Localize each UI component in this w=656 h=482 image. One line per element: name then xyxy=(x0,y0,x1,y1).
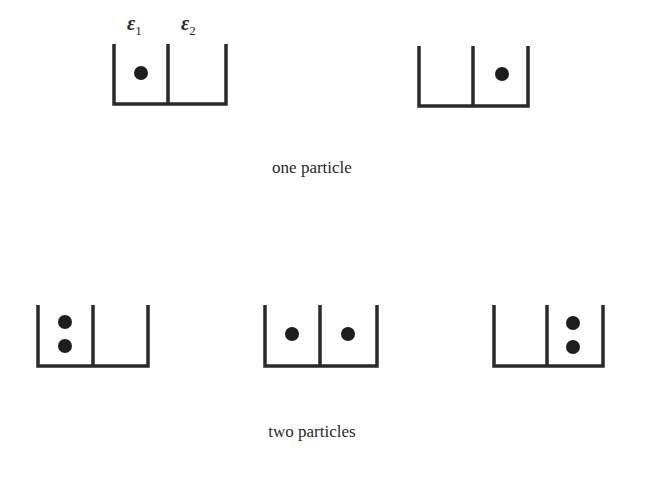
box-outline xyxy=(38,305,148,366)
level-2-label: ε2 xyxy=(181,12,196,39)
level-1-label: ε1 xyxy=(127,12,142,39)
two-particle-config-2 xyxy=(265,305,377,366)
energy-level-diagram xyxy=(0,0,656,482)
two-particles-caption: two particles xyxy=(268,422,355,442)
box-outline xyxy=(114,44,226,104)
one-particle-caption: one particle xyxy=(272,158,352,178)
level-2-subscript: 2 xyxy=(189,23,196,38)
box-outline xyxy=(494,305,603,366)
particle-dot xyxy=(134,66,148,80)
two-particle-config-1 xyxy=(38,305,148,366)
epsilon-symbol: ε xyxy=(181,12,189,34)
epsilon-symbol: ε xyxy=(127,12,135,34)
box-outline xyxy=(419,46,528,106)
particle-dot xyxy=(285,327,299,341)
particle-dot xyxy=(566,316,580,330)
one-particle-config-1 xyxy=(114,44,226,104)
two-particle-config-3 xyxy=(494,305,603,366)
level-1-subscript: 1 xyxy=(135,23,142,38)
particle-dot xyxy=(341,327,355,341)
particle-dot xyxy=(58,339,72,353)
one-particle-config-2 xyxy=(419,46,528,106)
particle-dot xyxy=(495,67,509,81)
particle-dot xyxy=(566,340,580,354)
particle-dot xyxy=(58,315,72,329)
box-outline xyxy=(265,305,377,366)
